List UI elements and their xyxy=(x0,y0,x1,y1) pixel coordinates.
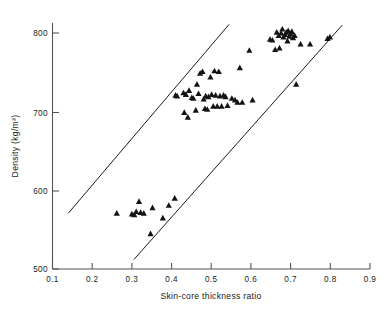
x-tick-label-0.3: 0.3 xyxy=(126,275,139,284)
data-point-marker xyxy=(246,47,252,53)
data-point-marker xyxy=(147,231,153,237)
data-point-marker xyxy=(293,81,299,87)
x-axis-title: Skin-core thickness ratio xyxy=(160,291,261,301)
data-point-marker xyxy=(279,26,285,32)
data-point-marker xyxy=(276,45,282,51)
upper-bound-line xyxy=(68,24,229,213)
x-tick-label-0.9: 0.9 xyxy=(364,275,377,284)
x-tick-label-0.4: 0.4 xyxy=(165,275,178,284)
data-point-marker xyxy=(207,74,213,80)
x-tick-label-0.6: 0.6 xyxy=(245,275,258,284)
data-point-marker xyxy=(195,90,201,96)
data-point-marker xyxy=(149,205,155,211)
y-axis-ticks xyxy=(53,33,60,269)
x-tick-label-0.7: 0.7 xyxy=(284,275,297,284)
x-tick-label-0.1: 0.1 xyxy=(46,275,59,284)
data-point-marker xyxy=(297,41,303,47)
bound-lines-layer xyxy=(68,24,342,259)
axes-group xyxy=(53,23,371,269)
y-axis-tick-labels: 800 700 600 500 xyxy=(33,29,48,274)
data-point-marker xyxy=(193,107,199,113)
data-point-marker xyxy=(136,198,142,204)
data-point-marker xyxy=(172,195,178,201)
data-point-marker xyxy=(237,65,243,71)
data-point-marker xyxy=(114,210,120,216)
x-tick-label-0.5: 0.5 xyxy=(205,275,218,284)
plot-canvas: 800 700 600 500 0.1 0.2 0.3 0.4 0.5 0.6 … xyxy=(0,0,384,317)
scatter-plot-figure: 800 700 600 500 0.1 0.2 0.3 0.4 0.5 0.6 … xyxy=(0,0,384,317)
data-point-marker xyxy=(160,215,166,221)
y-axis-title: Density (kg/m³) xyxy=(10,115,20,178)
data-point-marker xyxy=(249,97,255,103)
data-point-marker xyxy=(166,202,172,208)
data-point-marker xyxy=(194,81,200,87)
x-axis-ticks xyxy=(53,263,371,269)
x-axis-tick-labels: 0.1 0.2 0.3 0.4 0.5 0.6 0.7 0.8 0.9 xyxy=(46,275,376,284)
data-point-marker xyxy=(307,41,313,47)
data-point-marker xyxy=(181,109,187,115)
y-tick-label-500: 500 xyxy=(33,265,48,274)
y-tick-label-800: 800 xyxy=(33,29,48,38)
data-point-marker xyxy=(224,102,230,108)
x-tick-label-0.8: 0.8 xyxy=(324,275,337,284)
y-tick-label-700: 700 xyxy=(33,109,48,118)
data-point-marker xyxy=(216,68,222,74)
data-point-marker xyxy=(239,99,245,105)
x-tick-label-0.2: 0.2 xyxy=(86,275,99,284)
data-point-marker xyxy=(186,87,192,93)
data-point-marker xyxy=(218,103,224,109)
y-tick-label-600: 600 xyxy=(33,187,48,196)
data-points-layer xyxy=(114,26,333,236)
lower-bound-line xyxy=(134,25,342,259)
